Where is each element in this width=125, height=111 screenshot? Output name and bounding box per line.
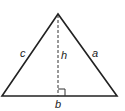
- label-base-b: b: [55, 98, 61, 110]
- triangle-diagram: c h a b: [0, 0, 125, 111]
- label-side-c: c: [20, 47, 26, 59]
- triangle-figure: c h a b: [0, 0, 125, 111]
- label-height-h: h: [61, 49, 67, 61]
- label-side-a: a: [92, 47, 98, 59]
- right-angle-marker: [58, 89, 65, 96]
